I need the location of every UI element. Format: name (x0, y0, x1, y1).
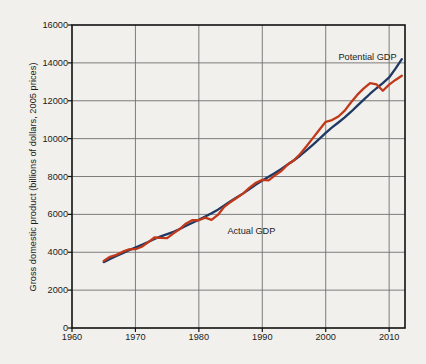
chart-annotation-label: Actual GDP (227, 226, 275, 236)
chart-annotation-label: Potential GDP (338, 52, 396, 62)
gdp-chart-figure: Gross domestic product (billions of doll… (0, 0, 426, 364)
gridlines (68, 25, 405, 332)
